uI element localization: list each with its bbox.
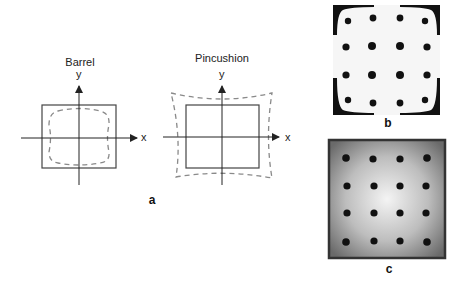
barrel-diagram	[21, 86, 137, 185]
pincushion-diagram	[163, 86, 279, 185]
panel-c-image	[329, 140, 445, 258]
panel-c-label: c	[386, 262, 393, 276]
panel-b-image	[333, 5, 440, 115]
panel-b-label: b	[384, 116, 391, 130]
distortion-diagrams	[0, 0, 464, 285]
